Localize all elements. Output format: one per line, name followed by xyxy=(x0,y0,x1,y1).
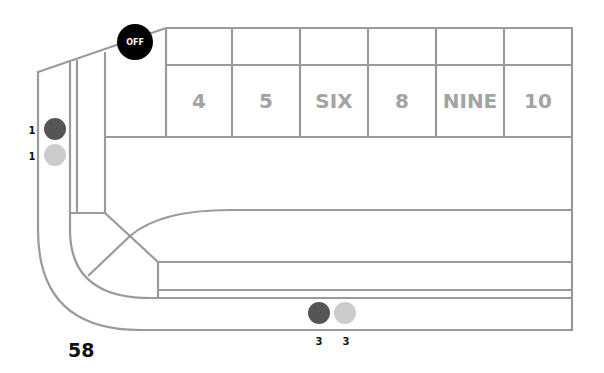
bottom-dark-chip-count: 3 xyxy=(316,336,323,347)
off-puck-label: OFF xyxy=(126,38,144,47)
page-number: 58 xyxy=(68,339,94,361)
dark-chip-icon xyxy=(308,302,330,324)
table-outer-border xyxy=(38,28,572,330)
place-number-10: 10 xyxy=(524,89,552,113)
dark-chip-icon xyxy=(44,118,66,140)
place-number-six: SIX xyxy=(315,89,353,113)
field-top-curve xyxy=(130,210,572,236)
corner-diagonal xyxy=(105,213,158,298)
bottom-light-chip-count: 3 xyxy=(343,336,350,347)
side-dark-chip-count: 1 xyxy=(29,125,36,136)
place-number-5: 5 xyxy=(259,89,273,113)
place-number-nine: NINE xyxy=(443,89,498,113)
craps-table-layout: 4 5 SIX 8 NINE 10 OFF 1 1 3 3 58 xyxy=(0,0,604,373)
light-chip-icon xyxy=(334,302,356,324)
corner-cross xyxy=(88,236,130,276)
place-number-8: 8 xyxy=(395,89,409,113)
light-chip-icon xyxy=(44,144,66,166)
place-number-4: 4 xyxy=(192,89,206,113)
side-light-chip-count: 1 xyxy=(29,151,36,162)
